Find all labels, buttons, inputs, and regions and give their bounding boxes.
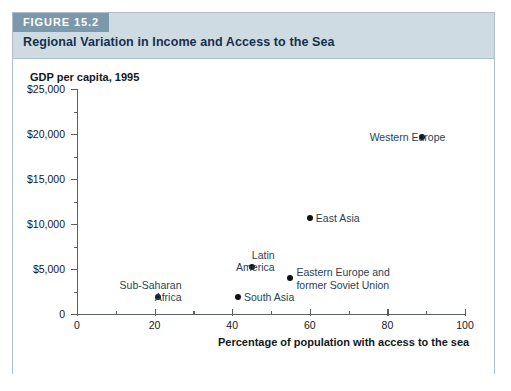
data-point-label: East Asia [316, 211, 360, 224]
data-point-label: Eastern Europe and former Soviet Union [296, 266, 389, 291]
x-tick-major [232, 309, 233, 316]
scatter-plot: GDP per capita, 1995 0$5,000$10,000$15,0… [13, 59, 494, 374]
data-point [307, 215, 313, 221]
figure-title: Regional Variation in Income and Access … [23, 35, 335, 49]
y-tick-minor [74, 292, 78, 293]
data-point-label: Latin America [236, 248, 275, 273]
y-tick-minor [74, 247, 78, 248]
y-tick-major [71, 224, 78, 225]
x-tick-label: 100 [456, 319, 474, 331]
data-point-label: Western Europe [370, 130, 446, 143]
x-tick-minor [116, 311, 117, 315]
y-tick-major [71, 269, 78, 270]
y-tick-label: $20,000 [5, 128, 65, 140]
x-tick-major [310, 309, 311, 316]
x-tick-major [155, 309, 156, 316]
x-axis-title: Percentage of population with access to … [218, 336, 469, 348]
x-tick-major [387, 309, 388, 316]
y-tick-minor [74, 112, 78, 113]
x-tick-label: 60 [304, 319, 316, 331]
y-tick-label: $15,000 [5, 173, 65, 185]
y-axis-title: GDP per capita, 1995 [30, 71, 139, 83]
data-point-label: Sub-Saharan Africa [120, 278, 182, 303]
y-tick-label: $10,000 [5, 218, 65, 230]
y-tick-label: $5,000 [5, 263, 65, 275]
y-tick-major [71, 89, 78, 90]
figure-frame: FIGURE 15.2 Regional Variation in Income… [12, 12, 495, 374]
y-tick-minor [74, 157, 78, 158]
y-tick-major [71, 134, 78, 135]
y-tick-label: $25,000 [5, 83, 65, 95]
data-point-label: South Asia [244, 291, 294, 304]
x-tick-label: 40 [226, 319, 238, 331]
x-tick-label: 80 [382, 319, 394, 331]
x-tick-label: 0 [74, 319, 80, 331]
data-point [287, 275, 293, 281]
y-tick-label: 0 [5, 308, 65, 320]
data-point [235, 294, 241, 300]
y-tick-major [71, 179, 78, 180]
x-tick-minor [193, 311, 194, 315]
figure-header: FIGURE 15.2 Regional Variation in Income… [13, 13, 494, 59]
figure-number-tag: FIGURE 15.2 [13, 13, 109, 32]
x-tick-minor [349, 311, 350, 315]
x-tick-minor [271, 311, 272, 315]
x-tick-major [465, 309, 466, 316]
x-tick-label: 20 [149, 319, 161, 331]
y-tick-minor [74, 202, 78, 203]
x-tick-minor [426, 311, 427, 315]
x-tick-major [77, 309, 78, 316]
